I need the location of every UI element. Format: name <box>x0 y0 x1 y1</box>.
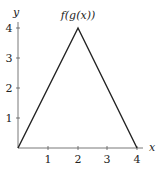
x-tick-label-3: 3 <box>104 153 111 166</box>
y-tick-label-1: 1 <box>6 112 13 125</box>
y-tick-label-2: 2 <box>6 82 13 95</box>
curve-f-of-g <box>18 28 137 148</box>
x-axis-label: x <box>149 141 156 154</box>
x-tick-label-1: 1 <box>45 153 52 166</box>
chart: 1 2 3 4 1 2 3 4 x y f(g(x)) <box>0 0 159 172</box>
y-axis-label: y <box>12 6 20 19</box>
y-tick-label-4: 4 <box>6 22 13 35</box>
curve-label: f(g(x)) <box>60 9 95 22</box>
y-tick-label-3: 3 <box>6 52 13 65</box>
x-tick-label-2: 2 <box>75 153 82 166</box>
x-tick-label-4: 4 <box>134 153 141 166</box>
